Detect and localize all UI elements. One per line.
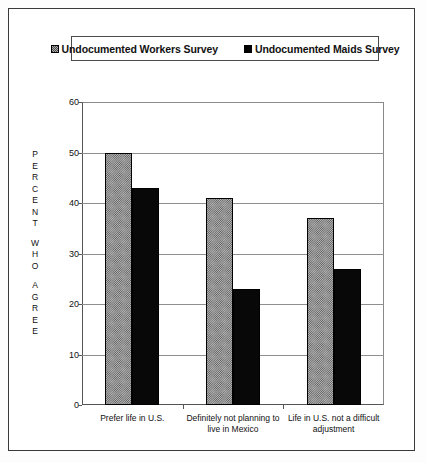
bar-workers [105, 153, 132, 406]
y-axis-title-char: C [32, 184, 38, 196]
y-axis-title-char: E [32, 326, 38, 338]
outer-border: Undocumented Workers Survey Undocumented… [8, 8, 415, 451]
y-axis-title-char: P [32, 149, 38, 161]
y-axis-tick-mark [78, 355, 82, 356]
bar-maids [334, 269, 361, 405]
x-axis-category-line: adjustment [271, 424, 396, 435]
y-axis-tick-label: 50 [55, 148, 79, 158]
y-axis-tick-label: 20 [55, 299, 79, 309]
solid-swatch-icon [244, 45, 252, 53]
y-axis-title-char: G [32, 292, 39, 304]
y-axis-title-char: T [32, 218, 37, 230]
y-axis-title-char: H [32, 249, 38, 261]
y-axis-tick-mark [78, 304, 82, 305]
y-axis-title-char: E [32, 195, 38, 207]
y-axis-tick-label: 30 [55, 249, 79, 259]
y-axis-title: PERCENTWHOAGREE [27, 149, 43, 338]
y-axis-tick-mark [78, 102, 82, 103]
bar-maids [233, 289, 260, 405]
y-axis-title-char: W [31, 238, 39, 250]
y-axis-tick-label: 0 [55, 400, 79, 410]
plot-area: 0102030405060 [82, 102, 384, 405]
y-axis-tick-label: 60 [55, 97, 79, 107]
legend-label-maids: Undocumented Maids Survey [255, 43, 400, 55]
bar-workers [307, 218, 334, 405]
x-axis-tick-mark [283, 405, 284, 409]
y-axis-tick-mark [78, 203, 82, 204]
legend-entry-maids: Undocumented Maids Survey [244, 43, 400, 55]
chart-screenshot: Undocumented Workers Survey Undocumented… [0, 0, 427, 463]
y-axis-title-char: R [32, 172, 38, 184]
hatch-swatch-icon [51, 45, 59, 53]
x-axis-tick-mark [183, 405, 184, 409]
y-axis-tick-label: 40 [55, 198, 79, 208]
y-axis-title-char: N [32, 207, 38, 219]
legend-label-workers: Undocumented Workers Survey [62, 43, 218, 55]
x-axis-category-label: Life in U.S. not a difficultadjustment [271, 413, 396, 435]
bar-workers [206, 198, 233, 405]
y-axis-title-char: E [32, 315, 38, 327]
y-axis-tick-label: 10 [55, 350, 79, 360]
chart-legend: Undocumented Workers Survey Undocumented… [71, 36, 379, 61]
y-axis-tick-mark [78, 153, 82, 154]
y-axis-title-char: R [32, 303, 38, 315]
y-axis-tick-mark [78, 254, 82, 255]
y-axis-title-char: E [32, 161, 38, 173]
y-axis-tick-mark [78, 405, 82, 406]
y-axis-title-char: O [32, 261, 39, 273]
y-axis-title-char: A [32, 280, 38, 292]
x-axis-category-line: Life in U.S. not a difficult [271, 413, 396, 424]
legend-entry-workers: Undocumented Workers Survey [51, 43, 218, 55]
bar-maids [132, 188, 159, 405]
